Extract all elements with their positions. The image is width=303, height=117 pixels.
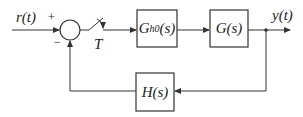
feedback-block-label: H(s) [136,73,174,111]
zoh-block-label: Gh0(s) [137,10,177,47]
plus-sign: + [48,11,55,23]
plant-block-label: G(s) [210,10,248,47]
zoh-label-sub: h0 [150,23,160,34]
input-label: r(t) [16,10,36,25]
output-label: y(t) [272,8,293,23]
minus-sign: − [54,36,61,48]
zoh-label-tail: (s) [160,20,176,37]
zoh-label-main: G [139,20,150,37]
sampler-rotation-arrow-icon [97,19,103,28]
summing-junction [60,20,80,40]
sampler-label: T [94,37,102,52]
sampler-switch-arm [89,18,103,30]
feedback-to-sum-line [70,41,136,91]
